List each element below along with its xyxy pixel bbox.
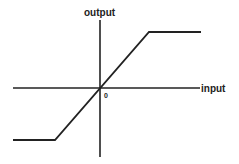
x-axis-label: input <box>201 83 226 94</box>
transfer-function-diagram: output input 0 <box>0 0 239 164</box>
origin-label: 0 <box>104 92 108 99</box>
saturation-curve <box>13 32 201 140</box>
y-axis-label: output <box>84 7 116 18</box>
